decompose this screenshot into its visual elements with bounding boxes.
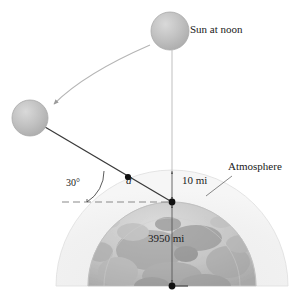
earth-radius-label: 3950 mi xyxy=(148,233,184,244)
sun-at-noon-circle xyxy=(151,12,189,50)
refraction-diagram-figure: Sun at noon Atmosphere 30° d 10 mi 3950 … xyxy=(0,0,295,297)
earth-surface-point xyxy=(169,199,176,206)
distance-d-label: d xyxy=(126,175,132,186)
sun-motion-arrow xyxy=(54,45,150,104)
angle-label: 30° xyxy=(66,178,80,188)
atmosphere-label: Atmosphere xyxy=(228,161,282,172)
sun-at-horizon-circle xyxy=(12,100,48,136)
atmosphere-thickness-label: 10 mi xyxy=(182,175,207,186)
earth-center-point xyxy=(169,283,176,290)
sun-at-noon-label: Sun at noon xyxy=(190,24,243,35)
diagram-canvas xyxy=(0,0,295,297)
